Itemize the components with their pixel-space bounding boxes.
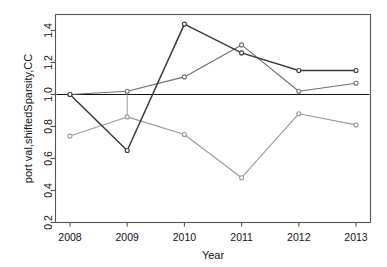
data-point <box>182 75 186 79</box>
data-point <box>240 176 244 180</box>
y-tick-label: 1.0 <box>42 87 54 102</box>
data-point <box>68 93 72 97</box>
x-tick-label: 2011 <box>230 231 253 243</box>
x-axis-title: Year <box>202 249 225 261</box>
data-point <box>354 123 358 127</box>
y-tick-label: 1.4 <box>42 23 54 38</box>
y-tick-label: 0.4 <box>42 183 54 198</box>
data-point <box>125 115 129 119</box>
data-point <box>240 43 244 47</box>
data-point <box>354 69 358 73</box>
y-tick-label: 1.2 <box>42 55 54 70</box>
y-axis-title: port val,shiftedSparsity,CC <box>22 54 34 183</box>
x-tick-label: 2013 <box>344 231 368 243</box>
y-tick-label: 0.2 <box>42 215 54 230</box>
data-point <box>125 149 129 153</box>
line-chart: 0.20.40.60.81.01.21.4 200820092010201120… <box>0 0 387 267</box>
x-tick-label: 2012 <box>287 231 311 243</box>
data-point <box>297 69 301 73</box>
data-point <box>297 89 301 93</box>
data-point <box>240 51 244 55</box>
data-point <box>182 22 186 26</box>
data-point <box>354 81 358 85</box>
data-point <box>125 89 129 93</box>
data-point <box>297 112 301 116</box>
chart-container: 0.20.40.60.81.01.21.4 200820092010201120… <box>0 0 387 267</box>
chart-background <box>0 0 387 267</box>
x-tick-label: 2009 <box>116 231 140 243</box>
x-tick-label: 2010 <box>173 231 197 243</box>
y-tick-label: 0.6 <box>42 151 54 166</box>
y-tick-label: 0.8 <box>42 119 54 134</box>
data-point <box>182 133 186 137</box>
x-tick-label: 2008 <box>58 231 82 243</box>
data-point <box>68 134 72 138</box>
